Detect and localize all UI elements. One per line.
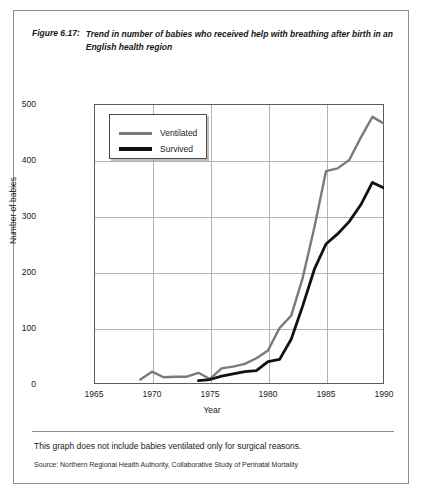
y-tick-0: 0 <box>0 379 36 389</box>
legend-swatch-ventilated <box>119 132 152 135</box>
legend-label-survived: Survived <box>160 144 193 154</box>
chart-area: Number of babies 500 400 300 200 100 0 1… <box>14 11 410 431</box>
series-line-survived <box>198 182 384 380</box>
figure-source: Source: Northern Regional Health Authori… <box>34 461 394 468</box>
x-tick-1985: 1985 <box>305 389 347 399</box>
y-tick-500: 500 <box>0 99 36 109</box>
figure-card: Figure 6.17: Trend in number of babies w… <box>13 10 409 484</box>
x-tick-1975: 1975 <box>189 389 231 399</box>
chart-legend: Ventilated Survived <box>109 114 207 159</box>
y-tick-300: 300 <box>0 211 36 221</box>
x-tick-1990: 1990 <box>363 389 405 399</box>
y-tick-200: 200 <box>0 267 36 277</box>
x-tick-1970: 1970 <box>131 389 173 399</box>
footer-divider <box>32 431 394 432</box>
x-axis-title: Year <box>14 405 410 415</box>
legend-swatch-survived <box>119 147 152 151</box>
legend-label-ventilated: Ventilated <box>160 128 197 138</box>
y-tick-400: 400 <box>0 155 36 165</box>
y-tick-100: 100 <box>0 323 36 333</box>
x-tick-1980: 1980 <box>247 389 289 399</box>
figure-footnote: This graph does not include babies venti… <box>34 441 394 451</box>
legend-item-ventilated: Ventilated <box>119 127 197 139</box>
legend-item-survived: Survived <box>119 143 193 155</box>
x-tick-1965: 1965 <box>73 389 115 399</box>
